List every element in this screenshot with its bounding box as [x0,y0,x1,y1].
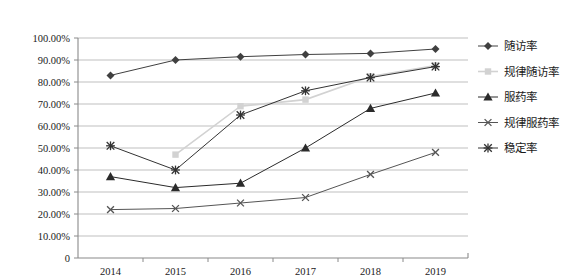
y-tick-label: 0 [65,253,70,264]
legend-label: 随访率 [504,39,537,52]
y-tick-label: 70.00% [38,99,71,110]
legend-label: 稳定率 [504,141,537,154]
x-tick-label: 2018 [360,266,381,277]
data-point [237,53,245,61]
y-axis-tick-labels: 010.00%20.00%30.00%40.00%50.00%60.00%70.… [32,33,78,264]
y-tick-label: 20.00% [38,209,71,220]
x-tick-label: 2014 [100,266,122,277]
x-tick-label: 2019 [425,266,446,277]
x-tick-label: 2017 [295,266,316,277]
x-tick-label: 2015 [165,266,186,277]
data-point [432,45,440,53]
data-point [367,171,374,178]
data-point [107,71,115,79]
data-point [172,56,180,64]
data-point [237,103,243,109]
series-4 [106,62,440,174]
data-point [106,141,115,150]
y-tick-label: 30.00% [38,187,71,198]
legend-marker [485,68,491,74]
data-point [367,49,375,57]
legend-item-1: 规律随访率 [478,65,559,78]
data-point [431,62,440,71]
data-point [302,96,308,102]
series-3 [107,149,439,213]
legend-item-2: 服药率 [478,90,537,103]
data-point [171,166,180,175]
legend-label: 服药率 [504,90,537,103]
legend-label: 规律服药率 [504,116,559,129]
data-point [301,86,310,95]
y-tick-label: 100.00% [32,33,70,44]
y-tick-label: 90.00% [38,55,71,66]
gridlines [78,38,468,236]
legend-item-0: 随访率 [478,39,537,52]
line-chart: 010.00%20.00%30.00%40.00%50.00%60.00%70.… [0,0,587,279]
y-tick-label: 50.00% [38,143,71,154]
y-tick-label: 40.00% [38,165,71,176]
chart-legend: 随访率规律随访率服药率规律服药率稳定率 [478,39,559,154]
legend-marker [484,42,492,50]
series-line [111,49,436,75]
data-point [431,88,440,96]
chart-canvas: 010.00%20.00%30.00%40.00%50.00%60.00%70.… [0,0,587,279]
y-tick-label: 10.00% [38,231,71,242]
data-point [302,51,310,59]
data-point [366,73,375,82]
data-point [301,143,310,151]
legend-item-4: 稳定率 [478,141,537,154]
series-line [176,66,436,155]
series-line [111,152,436,209]
data-point [236,179,245,187]
y-tick-label: 80.00% [38,77,71,88]
x-axis-tick-labels: 201420152016201720182019 [100,258,446,277]
x-tick-label: 2016 [230,266,251,277]
y-tick-label: 60.00% [38,121,71,132]
series-line [111,93,436,188]
data-point [172,151,178,157]
plot-series-group [106,45,440,213]
legend-item-3: 规律服药率 [478,116,559,129]
data-point [106,172,115,180]
legend-marker [484,144,493,153]
data-point [236,111,245,120]
legend-label: 规律随访率 [504,65,559,78]
data-point [432,149,439,156]
